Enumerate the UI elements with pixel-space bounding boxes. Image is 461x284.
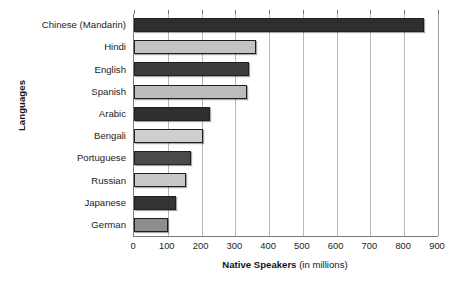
bar-row: [134, 147, 438, 169]
bar-row: [134, 81, 438, 103]
category-row: English: [20, 58, 130, 80]
x-axis-title-bold: Native Speakers: [222, 259, 296, 270]
category-label: Russian: [91, 176, 126, 186]
category-label: Hindi: [104, 42, 126, 52]
category-label-column: Chinese (Mandarin)HindiEnglishSpanishAra…: [20, 14, 130, 236]
category-row: Spanish: [20, 81, 130, 103]
x-axis-tick-label: 500: [294, 240, 310, 251]
bar: [134, 196, 176, 210]
bar-row: [134, 125, 438, 147]
category-label: Spanish: [91, 87, 126, 97]
category-row: Bengali: [20, 125, 130, 147]
bar: [134, 107, 210, 121]
bar-row: [134, 103, 438, 125]
plot-area: [133, 14, 438, 237]
category-label: Arabic: [99, 109, 126, 119]
x-axis-tick-label: 300: [227, 240, 243, 251]
x-axis-tick-label: 0: [130, 240, 135, 251]
bar: [134, 173, 186, 187]
bar-row: [134, 214, 438, 236]
bar-row: [134, 192, 438, 214]
bar-chart-figure: Languages Chinese (Mandarin)HindiEnglish…: [0, 0, 461, 284]
category-row: Hindi: [20, 36, 130, 58]
x-axis-tick-label: 800: [395, 240, 411, 251]
x-axis-tick-label: 200: [193, 240, 209, 251]
bar-row: [134, 58, 438, 80]
x-axis-title-plain: (in millions): [299, 259, 348, 270]
category-row: Arabic: [20, 103, 130, 125]
category-row: Chinese (Mandarin): [20, 14, 130, 36]
gridline: [438, 14, 439, 236]
category-label: Portuguese: [77, 153, 126, 163]
bar: [134, 129, 203, 143]
bar: [134, 85, 247, 99]
bar-row: [134, 169, 438, 191]
bar: [134, 18, 424, 32]
x-axis-tick-label: 700: [362, 240, 378, 251]
category-label: Japanese: [84, 198, 126, 208]
category-label: Chinese (Mandarin): [42, 20, 126, 30]
bar-row: [134, 36, 438, 58]
category-row: Portuguese: [20, 147, 130, 169]
bar: [134, 151, 191, 165]
category-label: English: [95, 65, 126, 75]
x-axis-tick-label: 100: [159, 240, 175, 251]
x-axis-tick-label: 400: [260, 240, 276, 251]
x-axis-tick-label: 900: [429, 240, 445, 251]
category-row: Japanese: [20, 192, 130, 214]
x-axis-tick-labels: 0100200300400500600700800900: [133, 240, 437, 254]
bar-series: [134, 14, 438, 236]
category-row: German: [20, 214, 130, 236]
bar: [134, 218, 168, 232]
category-label: Bengali: [94, 131, 126, 141]
bar-row: [134, 14, 438, 36]
x-axis-tickmark: [438, 10, 439, 14]
category-row: Russian: [20, 169, 130, 191]
category-label: German: [91, 220, 126, 230]
x-axis-title: Native Speakers (in millions): [133, 259, 437, 270]
x-axis-tick-label: 600: [328, 240, 344, 251]
bar: [134, 62, 249, 76]
bar: [134, 40, 256, 54]
